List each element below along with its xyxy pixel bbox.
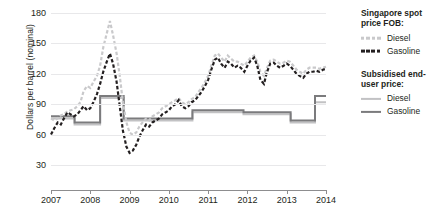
legend-item-subsidised-diesel: Diesel — [361, 92, 443, 105]
x-axis-tick-label: 2011 — [198, 196, 217, 205]
x-axis-tick-label: 2008 — [80, 196, 100, 205]
legend-item-spot-gasoline: Gasoline — [361, 45, 443, 58]
x-axis-tick-mark — [208, 190, 209, 194]
gridline — [51, 74, 326, 75]
x-axis-tick-mark — [287, 190, 288, 194]
legend-group-title: Singapore spot price FOB: — [361, 8, 443, 29]
gridline — [51, 13, 326, 14]
chart-legend: Singapore spot price FOB: Diesel Gasolin… — [361, 8, 443, 118]
gridline — [51, 135, 326, 136]
plot-area: 180150120906030 — [51, 13, 326, 165]
y-axis-tick-label: 120 — [31, 69, 46, 78]
series-lines — [51, 13, 326, 165]
legend-spacer — [361, 58, 443, 69]
x-axis-tick-label: 2013 — [277, 196, 297, 205]
dashed-dark-line-icon — [361, 47, 381, 55]
x-axis-tick-mark — [169, 190, 170, 194]
y-axis-tick-label: 90 — [36, 100, 46, 109]
legend-item-label: Gasoline — [387, 47, 420, 55]
x-axis-tick-mark — [51, 190, 52, 194]
legend-group-subsidised: Subsidised end-user price: Diesel Gasoli… — [361, 69, 443, 119]
y-axis-tick-label: 60 — [36, 130, 46, 139]
legend-group-title: Subsidised end-user price: — [361, 69, 443, 90]
x-axis-tick-mark — [326, 190, 327, 194]
legend-item-subsidised-gasoline: Gasoline — [361, 105, 443, 118]
x-axis-line — [51, 190, 326, 191]
x-axis-tick-mark — [130, 190, 131, 194]
x-axis-tick-label: 2014 — [316, 196, 336, 205]
dashed-light-line-icon — [361, 34, 381, 42]
x-axis-tick-label: 2012 — [237, 196, 257, 205]
legend-item-label: Diesel — [387, 94, 410, 102]
chart-figure: Dollars per barrel (nominal) 18015012090… — [0, 0, 444, 224]
gridline — [51, 104, 326, 105]
gridline — [51, 165, 326, 166]
series-line — [51, 96, 326, 122]
x-axis-tick-label: 2009 — [120, 196, 140, 205]
y-axis-tick-label: 180 — [31, 9, 46, 18]
solid-dark-line-icon — [361, 108, 381, 116]
solid-light-line-icon — [361, 95, 381, 103]
legend-item-label: Gasoline — [387, 107, 420, 115]
y-axis-tick-label: 30 — [36, 161, 46, 170]
legend-group-spot: Singapore spot price FOB: Diesel Gasolin… — [361, 8, 443, 58]
legend-item-label: Diesel — [387, 34, 410, 42]
legend-item-spot-diesel: Diesel — [361, 32, 443, 45]
x-axis-tick-label: 2010 — [159, 196, 179, 205]
x-axis-tick-label: 2007 — [41, 196, 61, 205]
x-axis-tick-mark — [90, 190, 91, 194]
y-axis-tick-label: 150 — [31, 39, 46, 48]
x-axis-tick-mark — [247, 190, 248, 194]
gridline — [51, 43, 326, 44]
